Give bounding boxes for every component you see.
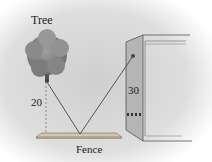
fence-label: Fence [76, 143, 102, 155]
tree-height-label: 20 [31, 96, 42, 108]
building-height-label: 30 [128, 84, 139, 96]
fence-icon [36, 133, 122, 139]
tree-label: Tree [31, 13, 53, 28]
diagram-canvas: Tree 20 30 Fence [0, 0, 212, 162]
